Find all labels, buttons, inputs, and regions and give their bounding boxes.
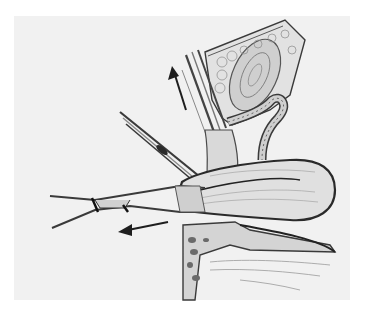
surgical-illustration <box>0 0 366 313</box>
illustration-frame <box>0 0 366 313</box>
lower-anatomy <box>183 222 335 300</box>
leftward-arrow-icon <box>118 222 168 236</box>
horizontal-forceps <box>50 186 205 228</box>
